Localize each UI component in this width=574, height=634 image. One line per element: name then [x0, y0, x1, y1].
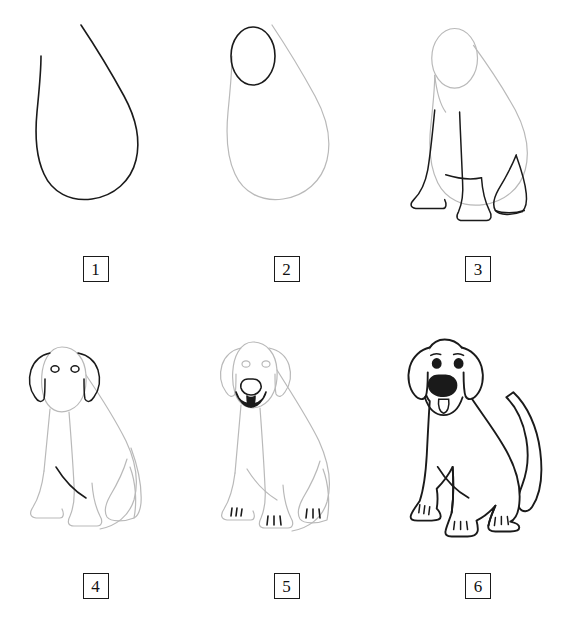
head-oval-guide — [431, 29, 477, 89]
step-number-2: 2 — [282, 261, 291, 278]
nose-filled — [428, 375, 456, 396]
step-4-drawing — [0, 317, 191, 569]
drawing-tutorial: 1 2 — [0, 0, 574, 634]
ear-right-stroke — [461, 348, 482, 400]
nose-stroke — [241, 379, 261, 395]
eye-left-filled — [432, 359, 440, 368]
step-6-drawing — [383, 317, 574, 569]
step-number-badge-6: 6 — [465, 573, 491, 599]
step-2-drawing — [191, 0, 382, 252]
step-number-4: 4 — [91, 578, 100, 595]
step-5-drawing — [191, 317, 382, 569]
eye-right-guide — [262, 361, 270, 367]
step-number-3: 3 — [474, 261, 483, 278]
step-3-drawing — [383, 0, 574, 252]
ear-left-stroke — [30, 353, 50, 401]
step-number-badge-3: 3 — [465, 256, 491, 282]
step-panel-5: 5 — [191, 317, 382, 634]
eye-left-stroke — [51, 366, 59, 372]
step-number-badge-2: 2 — [274, 256, 300, 282]
chest-line-guide — [247, 469, 277, 500]
eye-left-guide — [242, 361, 250, 367]
step-number-5: 5 — [282, 578, 291, 595]
tongue-stroke — [247, 396, 255, 407]
step-number-badge-5: 5 — [274, 573, 300, 599]
step-number-6: 6 — [474, 578, 483, 595]
toe-lines-front-left — [231, 508, 242, 516]
front-leg-left-guide — [31, 471, 64, 518]
front-leg-right-stroke — [456, 112, 490, 220]
chest-line-stroke — [445, 175, 481, 179]
ear-left-stroke — [408, 348, 429, 400]
step-1-drawing — [0, 0, 191, 252]
step-number-1: 1 — [91, 261, 100, 278]
steps-grid: 1 2 — [0, 0, 574, 634]
step-number-badge-1: 1 — [83, 256, 109, 282]
head-oval-stroke — [231, 27, 275, 85]
body-teardrop-guide — [227, 25, 329, 200]
toe-lines-hind — [306, 509, 320, 518]
step-panel-4: 4 — [0, 317, 191, 634]
front-leg-left-stroke — [411, 110, 446, 208]
toe-lines-front-right — [267, 516, 281, 525]
back-and-body-guide — [277, 370, 329, 531]
tongue-filled — [438, 399, 448, 413]
hind-leg-guide — [105, 459, 135, 521]
head-guide — [42, 347, 87, 412]
front-body-guide — [235, 405, 241, 473]
hind-paw-stroke — [495, 211, 524, 213]
body-teardrop-guide — [429, 45, 527, 205]
ear-left-guide — [221, 348, 241, 396]
eye-right-stroke — [71, 366, 79, 372]
front-leg-right-guide — [259, 408, 292, 528]
step-number-badge-4: 4 — [83, 573, 109, 599]
front-right-leg-line — [451, 467, 453, 513]
chest-line-stroke — [56, 467, 86, 498]
step-panel-1: 1 — [0, 0, 191, 317]
front-body-guide — [44, 409, 50, 471]
front-leg-left-guide — [222, 473, 255, 520]
eye-right-filled — [454, 359, 462, 368]
step-panel-6: 6 — [382, 317, 574, 634]
front-leg-right-guide — [68, 412, 101, 526]
step-panel-2: 2 — [191, 0, 382, 317]
body-teardrop-stroke — [36, 25, 138, 200]
ear-right-stroke — [78, 353, 99, 401]
step-panel-3: 3 — [382, 0, 574, 317]
ear-right-guide — [269, 348, 290, 396]
hind-haunch-stroke — [516, 156, 526, 212]
